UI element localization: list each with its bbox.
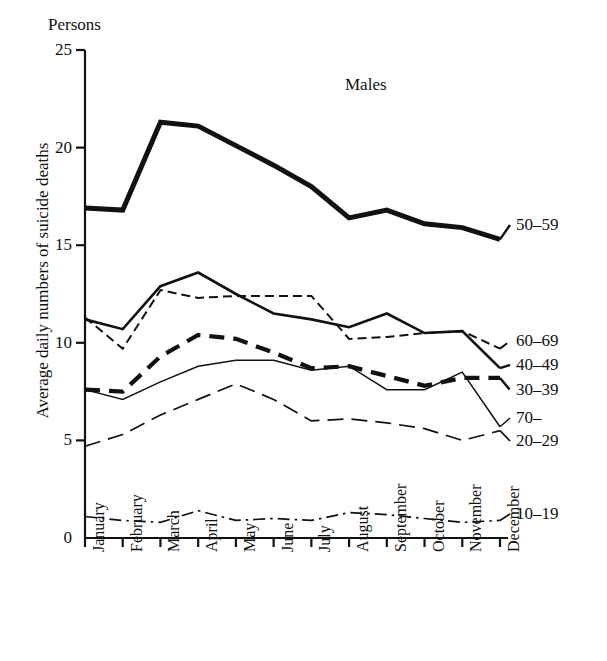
legend-leader-20-29 (500, 431, 510, 441)
y-tick-label: 0 (38, 529, 72, 546)
legend-leader-70- (500, 418, 510, 427)
legend-label-40-49: 40–49 (516, 356, 559, 373)
chart-axes (76, 50, 508, 547)
legend-label-70-: 70– (516, 409, 542, 426)
legend-label-50-59: 50–59 (516, 216, 559, 233)
x-tick-label: September (393, 484, 409, 552)
legend-leader-40-49 (500, 365, 510, 368)
y-tick-label: 5 (38, 431, 72, 448)
legend-leader-50-59 (500, 225, 510, 239)
series-line-60-69 (85, 290, 500, 349)
x-tick-label: July (317, 525, 333, 552)
legend-label-30-39: 30–39 (516, 381, 559, 398)
series-line-70- (85, 360, 500, 426)
x-tick-label: June (280, 523, 296, 552)
legend-leader-30-39 (500, 378, 510, 390)
x-tick-label: March (166, 510, 182, 552)
series-line-20-29 (85, 384, 500, 446)
legend-label-60-69: 60–69 (516, 332, 559, 349)
y-tick-label: 25 (38, 41, 72, 58)
legend-label-10-19: 10–19 (516, 505, 559, 522)
series-line-50-59 (85, 122, 500, 239)
x-tick-label: August (355, 506, 371, 552)
y-tick-label: 15 (38, 236, 72, 253)
legend-leader-lines (500, 225, 510, 520)
legend-leader-60-69 (500, 341, 510, 349)
axis-lines (85, 50, 508, 538)
chart-container: Persons Average daily numbers of suicide… (0, 0, 607, 661)
y-tick-label: 20 (38, 139, 72, 156)
x-tick-label: May (242, 523, 258, 552)
x-tick-label: February (129, 494, 145, 552)
x-tick-label: November (468, 484, 484, 552)
x-tick-label: January (91, 502, 107, 552)
legend-label-20-29: 20–29 (516, 432, 559, 449)
chart-series-layer (85, 122, 500, 522)
y-tick-label: 10 (38, 334, 72, 351)
series-line-40-49 (85, 273, 500, 369)
x-tick-label: April (204, 518, 220, 552)
x-tick-label: October (431, 500, 447, 552)
